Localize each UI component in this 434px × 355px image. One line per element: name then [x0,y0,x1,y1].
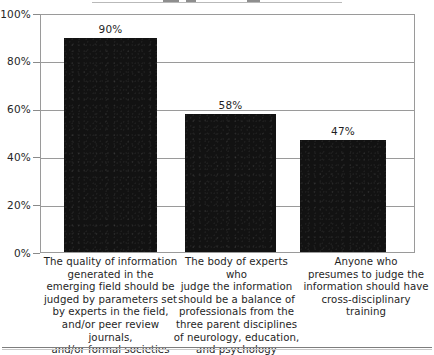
bar-category-1 [64,38,157,252]
y-axis-label-100: 100% [0,8,31,20]
x-axis-label-2-line: professionals from the [173,306,300,319]
y-axis-tick-40 [33,157,40,158]
x-axis-label-2-line: The body of experts who [173,256,300,281]
x-axis-label-3-line: Anyone who [302,256,430,269]
x-axis-label-2-line: three parent disciplines [173,319,300,332]
bar-category-2 [185,114,276,252]
x-axis-label-2-line: of neurology, education, [173,332,300,345]
y-axis-tick-0 [33,253,40,254]
x-axis-label-3-line: information should have [302,281,430,294]
bar-value-label-3: 47% [300,125,386,137]
x-axis-label-1-line: emerging field should be [41,281,180,294]
x-axis-label-1: The quality of information generated in … [41,256,180,355]
bar-value-label-1: 90% [64,23,157,35]
y-axis-tick-20 [33,205,40,206]
y-axis-tick-60 [33,110,40,111]
y-axis-label-0: 0% [0,247,31,259]
x-axis-label-1-line: The quality of information [41,256,180,269]
bar-value-label-2: 58% [185,99,276,111]
y-axis-tick-80 [33,62,40,63]
y-axis-label-20: 20% [0,199,31,211]
y-axis-label-80: 80% [0,55,31,67]
x-axis-label-1-line: and/or peer review journals, [41,319,180,344]
x-axis-label-1-line: generated in the [41,269,180,282]
bar-chart-figure: 100% 80% 60% 40% 20% 0% 90% 58% 47% The … [0,0,434,355]
y-axis-label-40: 40% [0,151,31,163]
x-axis-label-3-line: presumes to judge the [302,269,430,282]
x-axis-label-1-line: judged by parameters set [41,294,180,307]
x-axis-label-2-line: judge the information [173,281,300,294]
bar-category-3 [300,140,386,252]
y-axis-tick-100 [33,14,40,15]
x-axis-label-3: Anyone who presumes to judge the informa… [302,256,430,319]
x-axis-label-1-line: by experts in the field, [41,306,180,319]
page-footer-rule-shadow [2,349,432,350]
x-axis-label-2-line: should be a balance of [173,294,300,307]
page-footer-rule [2,347,432,348]
y-axis-label-60: 60% [0,103,31,115]
x-axis-label-2: The body of experts who judge the inform… [173,256,300,355]
x-axis-label-3-line: cross-disciplinary training [302,294,430,319]
